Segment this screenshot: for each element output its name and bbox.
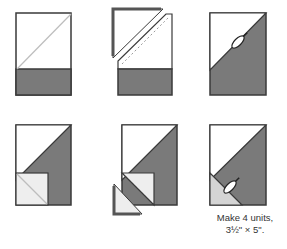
- caption-line-2: 3½" × 5".: [206, 224, 284, 236]
- step-6-panel: [209, 124, 269, 209]
- step-6-diagram: [209, 124, 269, 209]
- caption-line-1: Make 4 units,: [206, 212, 284, 224]
- step-2-panel: [108, 3, 178, 98]
- step-4-panel: [15, 124, 73, 209]
- step-3-panel: [209, 12, 269, 97]
- step-5-diagram: [108, 124, 180, 224]
- step-4-diagram: [15, 124, 73, 209]
- step-2-diagram: [108, 3, 178, 98]
- step-1-panel: [15, 12, 73, 97]
- step-1-diagram: [15, 12, 73, 97]
- step-5-panel: [108, 124, 180, 224]
- step-3-diagram: [209, 12, 269, 97]
- caption: Make 4 units, 3½" × 5".: [206, 212, 284, 236]
